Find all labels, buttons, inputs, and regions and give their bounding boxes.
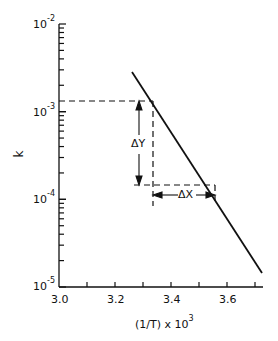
tick-base: 10 xyxy=(33,193,47,206)
tick-base: 10 xyxy=(33,18,47,31)
delta-x-label: ΔX xyxy=(178,188,193,201)
tick-exponent: -3 xyxy=(47,102,55,111)
x-axis-label-text: (1/T) x 10 xyxy=(135,318,189,331)
delta-y-label: ΔY xyxy=(131,137,145,150)
y-tick-label-1e-5: 10-5 xyxy=(33,278,55,293)
tick-base: 10 xyxy=(33,106,47,119)
x-tick-label: 3.0 xyxy=(51,293,69,306)
tick-exponent: -5 xyxy=(47,276,55,285)
x-axis-ticks xyxy=(87,282,255,287)
x-tick-label: 3.2 xyxy=(107,293,125,306)
x-axis-label-exponent: 3 xyxy=(189,314,194,323)
y-tick-label-1e-3: 10-3 xyxy=(33,104,55,119)
x-tick-label: 3.6 xyxy=(219,293,237,306)
y-axis-ticks xyxy=(59,24,66,287)
y-tick-label-1e-2: 10-2 xyxy=(33,16,55,31)
data-line xyxy=(132,72,262,273)
tick-base: 10 xyxy=(33,280,47,293)
x-tick-label: 3.4 xyxy=(163,293,181,306)
y-tick-label-1e-4: 10-4 xyxy=(33,191,55,206)
tick-exponent: -4 xyxy=(47,189,55,198)
tick-exponent: -2 xyxy=(47,14,55,23)
y-axis-label: k xyxy=(12,151,26,158)
x-axis-label: (1/T) x 103 xyxy=(135,316,194,331)
